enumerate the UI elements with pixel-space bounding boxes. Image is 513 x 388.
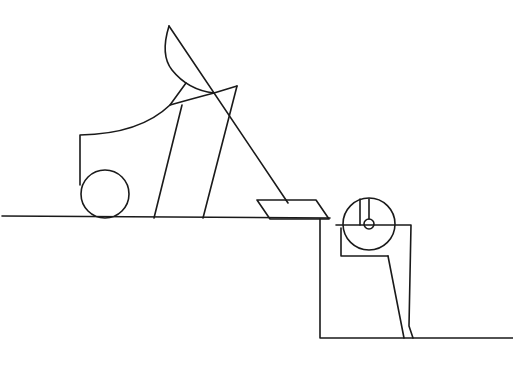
pulley-hub-circle	[364, 219, 374, 229]
upper-ground-line	[2, 216, 330, 218]
lever-arm-line	[169, 26, 288, 203]
plate-parallelogram	[257, 200, 329, 219]
pulley-slanted-leg	[388, 256, 404, 338]
crossbar-arc	[170, 86, 237, 105]
line-drawing	[0, 0, 513, 388]
pit-wall	[320, 219, 513, 338]
pulley-inner-box	[341, 228, 388, 256]
diagram-canvas	[0, 0, 513, 388]
left-wheel-circle	[81, 170, 129, 218]
left-body-outline	[80, 83, 186, 185]
right-support-leg	[203, 86, 237, 218]
left-support-leg	[154, 105, 182, 218]
